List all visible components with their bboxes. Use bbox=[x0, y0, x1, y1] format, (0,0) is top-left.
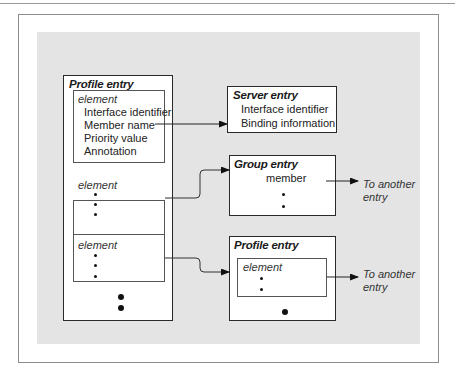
element-2-label: element bbox=[78, 179, 117, 191]
element-1-label: element bbox=[78, 93, 117, 105]
group-outgoing-label-line2: entry bbox=[363, 191, 387, 203]
profile-entry-title: Profile entry bbox=[69, 78, 134, 90]
continuation-dot bbox=[118, 294, 124, 300]
ellipsis-dot bbox=[94, 193, 97, 196]
profile-entry-2-element-label: element bbox=[243, 261, 282, 273]
continuation-dot bbox=[282, 309, 288, 315]
ellipsis-dot bbox=[282, 205, 285, 208]
ellipsis-dot bbox=[94, 275, 97, 278]
ellipsis-dot bbox=[94, 264, 97, 267]
ellipsis-dot bbox=[260, 277, 263, 280]
server-field-binding-information: Binding information bbox=[241, 117, 335, 129]
group-outgoing-label-line1: To another bbox=[363, 178, 415, 190]
continuation-dot bbox=[118, 305, 124, 311]
field-priority-value: Priority value bbox=[84, 132, 148, 144]
profile-2-outgoing-label-line1: To another bbox=[363, 268, 415, 280]
ellipsis-dot bbox=[94, 203, 97, 206]
ellipsis-dot bbox=[282, 193, 285, 196]
ellipsis-dot bbox=[94, 254, 97, 257]
group-member-label: member bbox=[266, 172, 306, 184]
element-3-label: element bbox=[78, 239, 117, 251]
server-entry-title: Server entry bbox=[233, 89, 298, 101]
page-top-rule bbox=[0, 3, 455, 4]
field-member-name: Member name bbox=[84, 119, 155, 131]
field-annotation: Annotation bbox=[84, 145, 137, 157]
ellipsis-dot bbox=[94, 213, 97, 216]
ellipsis-dot bbox=[260, 288, 263, 291]
profile-entry-2-title: Profile entry bbox=[234, 239, 299, 251]
profile-2-outgoing-label-line2: entry bbox=[363, 281, 387, 293]
group-entry-title: Group entry bbox=[234, 158, 298, 170]
server-field-interface-identifier: Interface identifier bbox=[241, 103, 328, 115]
field-interface-identifier: Interface identifier bbox=[84, 106, 171, 118]
